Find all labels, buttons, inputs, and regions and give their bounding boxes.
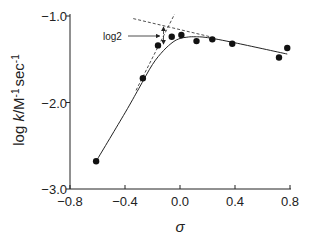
y-tick-label: −2.0 — [41, 96, 67, 111]
x-axis-title: σ — [175, 218, 185, 235]
data-point — [284, 45, 290, 51]
data-point — [169, 34, 175, 40]
annotations: log2 — [103, 27, 164, 44]
y-tick-label: −3.0 — [41, 182, 67, 197]
x-tick-label: 0.0 — [171, 194, 189, 209]
data-points — [93, 32, 291, 165]
data-point — [93, 158, 99, 164]
y-axis-title: log k/M-1sec-1 — [10, 54, 28, 146]
data-point — [276, 54, 282, 60]
x-tick-label: −0.4 — [112, 194, 138, 209]
data-point — [140, 75, 146, 81]
log2-label: log2 — [103, 31, 122, 42]
data-point — [229, 40, 235, 46]
y-tick-label: −1.0 — [41, 9, 67, 24]
chart: −0.8−0.40.00.40.8−1.0−2.0−3.0 log2 σlog … — [0, 0, 311, 239]
data-point — [155, 42, 161, 48]
data-point — [178, 32, 184, 38]
data-point — [193, 38, 199, 44]
plot-lines — [96, 14, 287, 161]
x-tick-label: 0.8 — [281, 194, 299, 209]
data-point — [209, 36, 215, 42]
x-tick-label: 0.4 — [226, 194, 244, 209]
axis-labels: σlog k/M-1sec-1 — [10, 54, 186, 235]
fit-curve — [96, 37, 287, 162]
